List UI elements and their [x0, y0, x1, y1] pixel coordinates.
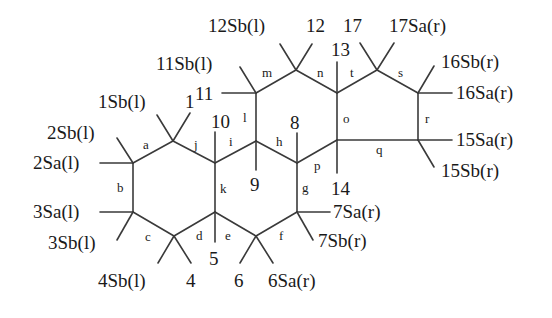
bond-c	[133, 212, 174, 236]
atom-label-8: 8	[290, 112, 300, 133]
sub-label-7Sa: 7Sa(r)	[333, 201, 380, 223]
bond-f	[256, 212, 297, 236]
sub-label-17Sa: 17Sa(r)	[389, 15, 446, 37]
sub-label-6Sa: 6Sa(r)	[268, 270, 315, 292]
atom-label-9: 9	[250, 174, 260, 195]
sub-bond-1Sb	[157, 115, 173, 141]
bond-label-i: i	[229, 134, 233, 149]
bond-label-o: o	[343, 111, 350, 126]
sub-bond-1	[173, 113, 190, 141]
sub-bond-12Sb	[280, 44, 296, 70]
sub-bond-6Sa	[256, 236, 273, 263]
bond-label-j: j	[193, 137, 198, 152]
bond-label-d: d	[196, 228, 203, 243]
bond-i	[215, 141, 256, 163]
atom-label-17: 17	[343, 15, 362, 36]
atom-label-11: 11	[195, 83, 213, 104]
bond-label-s: s	[398, 65, 403, 80]
bond-e	[215, 212, 256, 236]
bond-label-m: m	[262, 65, 272, 80]
sub-bond-12	[296, 44, 312, 70]
sub-bond-2Sb	[117, 138, 133, 163]
atom-label-1: 1	[185, 91, 195, 112]
sub-label-4Sb: 4Sb(l)	[98, 270, 146, 292]
bond-label-b: b	[117, 180, 124, 195]
sub-bond-16Sb	[418, 66, 434, 93]
sub-label-3Sa: 3Sa(l)	[33, 201, 79, 223]
atom-label-4: 4	[186, 270, 196, 291]
bond-label-g: g	[302, 180, 309, 195]
bond-label-h: h	[276, 134, 283, 149]
sub-label-1Sb: 1Sb(l)	[98, 91, 146, 113]
atom-label-5: 5	[209, 248, 219, 269]
bond-a	[133, 141, 173, 163]
sub-bond-15Sb	[418, 140, 434, 167]
sub-label-16Sb: 16Sb(r)	[441, 51, 499, 73]
sub-label-15Sb: 15Sb(r)	[441, 160, 499, 182]
bond-label-r: r	[425, 111, 430, 126]
bond-label-c: c	[145, 229, 151, 244]
atom-label-6: 6	[234, 270, 244, 291]
sub-label-11Sb: 11Sb(l)	[156, 53, 212, 75]
substituent-labels: 1Sb(l) 2Sb(l) 2Sa(l) 3Sa(l) 3Sb(l) 4Sb(l…	[33, 15, 513, 292]
sub-label-16Sa: 16Sa(r)	[456, 82, 513, 104]
sub-bond-4Sb	[158, 236, 174, 263]
bond-label-n: n	[317, 65, 324, 80]
bond-label-l: l	[243, 110, 247, 125]
sub-label-3Sb: 3Sb(l)	[48, 232, 96, 254]
bond-label-t: t	[350, 65, 354, 80]
bond-d	[174, 212, 215, 236]
sub-bond-3Sb	[117, 212, 133, 240]
bond-label-k: k	[220, 181, 227, 196]
atom-label-10: 10	[211, 111, 230, 132]
sub-bond-11Sb	[240, 67, 256, 93]
sub-label-2Sb: 2Sb(l)	[47, 122, 95, 144]
bond-letters: a b c d e f g h i j k l m n o p q r s t	[117, 65, 430, 244]
bond-label-a: a	[143, 137, 149, 152]
sub-label-12Sb: 12Sb(l)	[208, 15, 265, 37]
bond-label-e: e	[225, 228, 231, 243]
atom-label-13: 13	[331, 39, 350, 60]
atom-label-12: 12	[306, 15, 325, 36]
bond-label-q: q	[376, 142, 383, 157]
steroid-skeleton-diagram: a b c d e f g h i j k l m n o p q r s t …	[0, 0, 552, 318]
bond-t	[337, 70, 377, 93]
bond-label-p: p	[314, 158, 321, 173]
sub-bond-7Sb	[297, 212, 313, 240]
sub-bond-17Sa	[377, 43, 394, 70]
sub-bond-6	[240, 236, 256, 263]
atom-label-14: 14	[331, 178, 351, 199]
bond-label-f: f	[279, 228, 284, 243]
sub-label-2Sa: 2Sa(l)	[33, 152, 79, 174]
sub-label-15Sa: 15Sa(r)	[456, 129, 513, 151]
sub-bond-4	[174, 236, 191, 263]
sub-bond-17	[360, 43, 377, 70]
sub-label-7Sb: 7Sb(r)	[318, 230, 367, 252]
